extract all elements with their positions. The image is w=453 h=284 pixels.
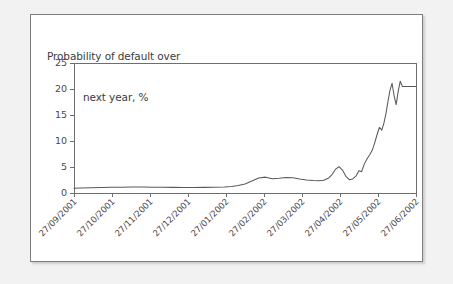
x-tick-label: 27/05/2002: [341, 196, 383, 238]
y-axis-ticks: 0510152025: [55, 57, 74, 198]
y-tick-label: 15: [55, 109, 67, 120]
x-tick-label: 27/10/2001: [75, 196, 117, 238]
x-tick-label: 27/09/2001: [37, 196, 79, 238]
chart-panel: Probability of default over next year, %…: [30, 14, 423, 262]
figure-outer-background: Probability of default over next year, %…: [0, 0, 453, 284]
x-axis-ticks: 27/09/200127/10/200127/11/200127/12/2001…: [37, 193, 421, 238]
y-tick-label: 25: [55, 57, 67, 68]
x-tick-label: 27/02/2002: [227, 196, 269, 238]
y-tick-label: 0: [61, 187, 67, 198]
data-series-group: [74, 81, 416, 188]
data-series-line: [74, 81, 416, 188]
x-tick-label: 27/06/2002: [379, 196, 421, 238]
x-tick-label: 27/11/2001: [113, 196, 155, 238]
axes-group: [74, 63, 416, 193]
plot-area: 0510152025 27/09/200127/10/200127/11/200…: [31, 15, 424, 263]
x-tick-label: 27/04/2002: [303, 196, 345, 238]
x-tick-label: 27/01/2002: [189, 196, 231, 238]
x-tick-label: 27/03/2002: [265, 196, 307, 238]
y-tick-label: 10: [55, 135, 67, 146]
line-chart-svg: 0510152025 27/09/200127/10/200127/11/200…: [31, 15, 424, 263]
y-tick-label: 5: [61, 161, 67, 172]
x-tick-label: 27/12/2001: [151, 196, 193, 238]
y-tick-label: 20: [55, 83, 67, 94]
